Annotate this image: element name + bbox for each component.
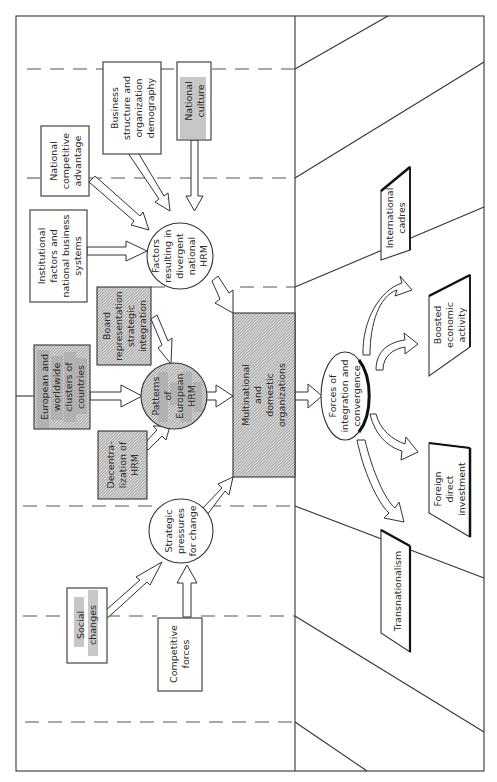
svg-text:strategic: strategic <box>125 305 136 347</box>
node-competitive-forces: Competitive forces <box>158 618 202 691</box>
svg-text:integration and: integration and <box>339 359 350 432</box>
svg-text:representation: representation <box>113 291 124 361</box>
node-institutional-factors: Institutional factors and national busin… <box>30 210 87 302</box>
node-international-cadres: International cadres <box>381 167 410 260</box>
svg-text:HRM: HRM <box>198 245 209 267</box>
svg-text:HRM: HRM <box>186 385 197 407</box>
arrow-forces-to-foreign <box>370 414 418 460</box>
svg-text:for change: for change <box>187 505 198 556</box>
svg-text:forces: forces <box>180 640 191 669</box>
svg-text:activity: activity <box>456 307 467 342</box>
node-decentralization-hrm: Decentra- lization of HRM <box>98 431 147 499</box>
arrow-competitive-to-factors <box>89 176 149 230</box>
svg-text:national: national <box>186 237 197 276</box>
svg-text:of: of <box>162 391 173 401</box>
svg-text:changes: changes <box>87 605 98 645</box>
arrow-patterns-to-multinational <box>206 385 233 407</box>
svg-text:International: International <box>384 188 395 249</box>
svg-text:countries: countries <box>75 365 86 409</box>
arrow-multinational-to-forces <box>295 384 322 408</box>
node-patterns-european-hrm: Patterns of European HRM <box>141 363 207 429</box>
svg-text:demography: demography <box>145 77 156 138</box>
svg-text:competitive: competitive <box>60 133 71 190</box>
svg-text:systems: systems <box>72 236 83 275</box>
svg-text:European: European <box>174 373 185 418</box>
svg-text:Business: Business <box>109 87 120 129</box>
node-factors-divergent-hrm: Factors resulting in divergent national … <box>147 223 213 289</box>
svg-text:divergent: divergent <box>174 233 185 279</box>
svg-text:Social: Social <box>75 611 86 639</box>
arrow-social-to-strategic <box>105 562 162 618</box>
node-national-competitive-advantage: National competitive advantage <box>41 126 89 196</box>
svg-text:domestic: domestic <box>264 373 275 416</box>
svg-text:convergence: convergence <box>351 365 362 426</box>
svg-text:Institutional: Institutional <box>36 228 47 285</box>
svg-text:resulting in: resulting in <box>162 229 173 282</box>
svg-text:Boosted: Boosted <box>432 306 443 345</box>
node-european-clusters: European and worldwide clusters of count… <box>34 345 90 429</box>
arrow-clusters-to-patterns <box>90 385 142 407</box>
node-multinational-domestic-orgs: Multinational and domestic organizations <box>233 313 295 477</box>
node-board-representation: Board representation strategic integrati… <box>97 287 151 365</box>
svg-text:Decentra-: Decentra- <box>105 441 116 488</box>
svg-text:HRM: HRM <box>129 454 140 476</box>
svg-text:national business: national business <box>60 214 71 297</box>
svg-text:Patterns: Patterns <box>150 376 161 415</box>
arrow-factors-to-multinational <box>212 276 233 313</box>
arrow-strategic-to-multinational <box>201 477 233 515</box>
svg-text:pressures: pressures <box>175 508 186 554</box>
node-social-changes: Social changes <box>67 588 107 663</box>
svg-text:organizations: organizations <box>276 363 287 427</box>
svg-text:Factors: Factors <box>150 239 161 273</box>
svg-text:Foreign: Foreign <box>432 471 443 506</box>
node-foreign-direct-investment: Foreign direct investment <box>429 443 470 537</box>
svg-text:Strategic: Strategic <box>163 510 174 553</box>
svg-text:European and: European and <box>39 354 50 420</box>
arrow-institutional-to-factors <box>87 241 147 261</box>
arrow-structure-to-factors <box>128 149 170 211</box>
hrm-diagram: National culture Business structure and … <box>0 0 497 782</box>
node-forces-integration: Forces of integration and convergence <box>321 352 369 440</box>
svg-text:integration: integration <box>137 300 148 352</box>
svg-text:Competitive: Competitive <box>168 625 179 683</box>
svg-text:Board: Board <box>101 312 112 340</box>
svg-text:lization of: lization of <box>117 441 128 488</box>
svg-text:Multinational: Multinational <box>240 364 251 426</box>
arrow-forces-to-boosted <box>376 333 418 370</box>
svg-text:direct: direct <box>444 475 455 502</box>
svg-text:clusters of: clusters of <box>63 362 74 412</box>
svg-text:advantage: advantage <box>72 135 83 186</box>
node-boosted-economic-activity: Boosted economic activity <box>429 275 470 376</box>
node-national-culture: National culture <box>177 62 211 140</box>
arrow-board-to-patterns <box>151 315 172 364</box>
svg-text:Forces of: Forces of <box>327 374 338 417</box>
svg-text:factors and: factors and <box>48 229 59 283</box>
svg-text:economic: economic <box>444 302 455 348</box>
node-strategic-pressures: Strategic pressures for change <box>149 499 213 563</box>
svg-text:organization: organization <box>133 78 144 137</box>
arrow-forces-to-transnationalism <box>357 440 404 522</box>
svg-text:worldwide: worldwide <box>51 363 62 412</box>
arrow-forces-to-strategic <box>177 565 197 617</box>
svg-text:National: National <box>183 81 194 121</box>
svg-text:investment: investment <box>456 462 467 516</box>
svg-text:Transnationalism: Transnationalism <box>392 551 403 632</box>
node-business-structure: Business structure and organization demo… <box>103 62 161 154</box>
svg-text:and: and <box>252 386 263 404</box>
svg-text:cadres: cadres <box>396 202 407 234</box>
node-transnationalism: Transnationalism <box>381 530 410 652</box>
svg-text:structure and: structure and <box>121 76 132 140</box>
arrow-culture-to-factors <box>186 140 203 211</box>
svg-text:culture: culture <box>195 84 206 117</box>
svg-text:National: National <box>48 141 59 181</box>
